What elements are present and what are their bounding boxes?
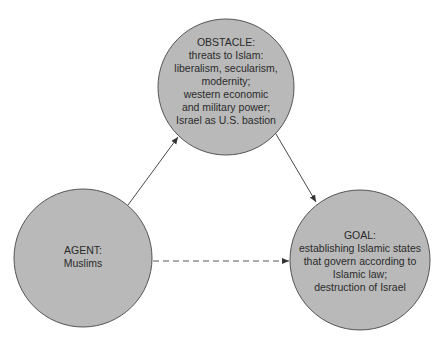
obstacle-title: OBSTACLE:: [158, 36, 294, 49]
obstacle-line: Israel as U.S. bastion: [158, 114, 294, 127]
obstacle-line: modernity;: [158, 75, 294, 88]
obstacle-line: and military power;: [158, 101, 294, 114]
goal-line: establishing Islamic states: [290, 242, 430, 255]
edge-obstacle-to-goal: [276, 134, 316, 202]
goal-node-label: GOAL: establishing Islamic states that g…: [290, 229, 430, 294]
obstacle-line: western economic: [158, 88, 294, 101]
obstacle-line: threats to Islam:: [158, 49, 294, 62]
obstacle-node-label: OBSTACLE: threats to Islam: liberalism, …: [158, 36, 294, 127]
goal-line: that govern according to: [290, 255, 430, 268]
agent-node-label: AGENT: Muslims: [23, 244, 143, 270]
goal-title: GOAL:: [290, 229, 430, 242]
agent-title: AGENT:: [23, 244, 143, 257]
edge-agent-to-obstacle: [128, 137, 178, 205]
obstacle-line: liberalism, secularism,: [158, 62, 294, 75]
goal-line: Islamic law;: [290, 268, 430, 281]
goal-line: destruction of Israel: [290, 281, 430, 294]
agent-line: Muslims: [23, 257, 143, 270]
